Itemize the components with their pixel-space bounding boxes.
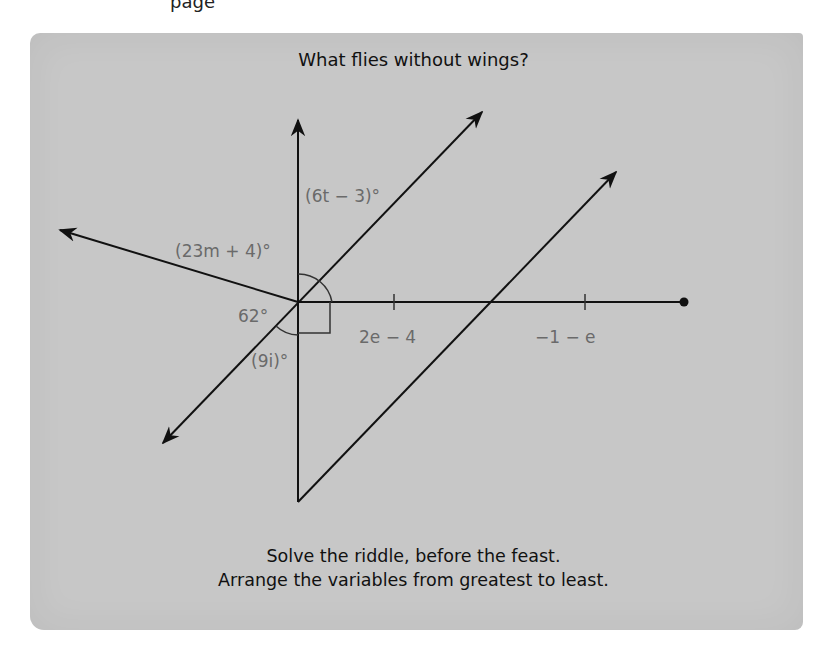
segment-label-neg1-e: −1 − e — [535, 327, 596, 347]
footer-line-1: Solve the riddle, before the feast. — [0, 544, 827, 568]
angle-arc-lower — [276, 326, 298, 335]
angle-label-9i: (9i)° — [251, 351, 288, 371]
footer-line-2: Arrange the variables from greatest to l… — [0, 568, 827, 592]
right-angle-marker — [298, 302, 330, 333]
angle-label-23m: (23m + 4)° — [175, 241, 271, 261]
segment-label-2e-4: 2e − 4 — [359, 327, 416, 347]
puzzle-footer: Solve the riddle, before the feast. Arra… — [0, 544, 827, 592]
angle-label-62: 62° — [238, 306, 268, 326]
diagonal-line — [163, 112, 482, 443]
angle-label-6t: (6t − 3)° — [305, 186, 380, 206]
endpoint-dot — [680, 298, 689, 307]
